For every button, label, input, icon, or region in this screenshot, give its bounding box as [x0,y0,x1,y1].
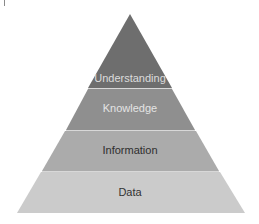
level-label-information: Information [102,144,157,156]
level-label-knowledge: Knowledge [103,102,157,114]
dikw-pyramid: Understanding Knowledge Information Data [0,0,259,224]
level-label-data: Data [118,186,142,198]
level-label-understanding: Understanding [94,72,166,84]
